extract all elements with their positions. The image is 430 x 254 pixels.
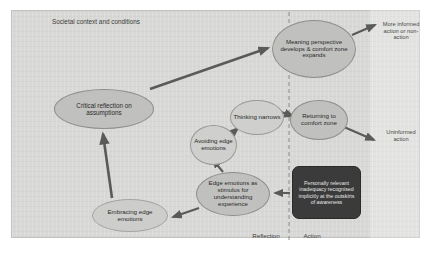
node-avoiding-edge-emotions[interactable]: Avoiding edge emotions — [190, 125, 237, 165]
arrow-returning-to-uninformed — [344, 127, 374, 140]
node-meaning-perspective-label: Meaning perspective develops & comfort z… — [280, 39, 348, 59]
node-more-informed-action-label: More informed action or non-action — [379, 21, 423, 41]
arrow-critical-to-meaning — [150, 48, 268, 89]
node-uninformed-action-label: Uninformed action — [379, 129, 423, 142]
node-critical-reflection-label: Critical reflection on assumptions — [63, 102, 145, 116]
node-personally-relevant-inadequacy[interactable]: Personally relevant inadequacy recognise… — [292, 166, 361, 219]
node-returning-to-comfort-zone-label: Returning to comfort zone — [295, 113, 343, 127]
societal-context-label: Societal context and conditions — [21, 15, 171, 28]
node-meaning-perspective[interactable]: Meaning perspective develops & comfort z… — [272, 20, 356, 78]
axis-label-reflection: Reflection — [245, 230, 287, 241]
diagram-canvas: Societal context and conditions Meaning … — [0, 0, 430, 254]
node-embracing-edge-emotions[interactable]: Embracing edge emotions — [92, 199, 168, 232]
node-thinking-narrows[interactable]: Thinking narrows — [230, 100, 284, 135]
node-personally-relevant-inadequacy-label: Personally relevant inadequacy recognise… — [297, 180, 356, 205]
arrow-edge-emotions-to-embracing — [173, 208, 199, 217]
node-edge-emotions-stimulus[interactable]: Edge emotions as stimulus for understand… — [196, 172, 270, 216]
arrow-meaning-to-more-informed — [352, 25, 375, 35]
node-thinking-narrows-label: Thinking narrows — [231, 114, 283, 121]
axis-label-reflection-text: Reflection — [245, 232, 287, 239]
axis-label-action: Action — [292, 230, 332, 241]
node-returning-to-comfort-zone[interactable]: Returning to comfort zone — [290, 100, 348, 140]
arrow-embracing-to-critical — [103, 134, 112, 198]
societal-context-text: Societal context and conditions — [21, 18, 171, 26]
node-more-informed-action: More informed action or non-action — [379, 13, 423, 49]
axis-label-action-text: Action — [292, 232, 332, 239]
node-avoiding-edge-emotions-label: Avoiding edge emotions — [191, 138, 236, 152]
node-embracing-edge-emotions-label: Embracing edge emotions — [98, 209, 162, 223]
node-uninformed-action: Uninformed action — [379, 126, 423, 146]
node-critical-reflection[interactable]: Critical reflection on assumptions — [54, 89, 154, 129]
node-edge-emotions-stimulus-label: Edge emotions as stimulus for understand… — [201, 180, 265, 207]
